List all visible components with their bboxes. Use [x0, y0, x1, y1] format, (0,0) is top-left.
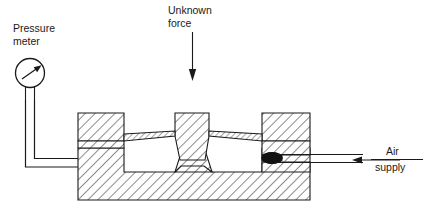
unknown-force-label-line1: Unknown — [168, 4, 212, 16]
pressure-meter-label-line1: Pressure — [13, 22, 55, 34]
pressure-tube-inner-wall — [35, 100, 79, 159]
right-upper-block — [262, 113, 310, 141]
air-supply-label-line1: Air — [386, 145, 399, 157]
center-plunger-upper — [175, 113, 209, 160]
pneumatic-force-balance-diagram: Pressure meter Unknown force Air supply — [0, 0, 426, 215]
pressure-meter-label-line2: meter — [13, 35, 40, 47]
unknown-force-arrow-group — [189, 32, 196, 81]
pressure-tube-group — [26, 100, 79, 167]
air-supply-label-line2: supply — [375, 161, 406, 173]
left-block-lower-segment — [78, 141, 124, 148]
unknown-force-label-line2: force — [168, 17, 192, 29]
diaphragm-beam-left-span — [124, 131, 175, 141]
diagram-canvas: Pressure meter Unknown force Air supply — [0, 0, 426, 215]
pressure-meter-group — [16, 59, 45, 101]
left-upper-block — [78, 113, 124, 141]
pressure-tube-outer-wall — [26, 100, 79, 167]
unknown-force-arrow-head — [189, 69, 196, 81]
diaphragm-beam-right-span — [209, 131, 262, 141]
labels-group: Pressure meter Unknown force Air supply — [13, 4, 406, 173]
